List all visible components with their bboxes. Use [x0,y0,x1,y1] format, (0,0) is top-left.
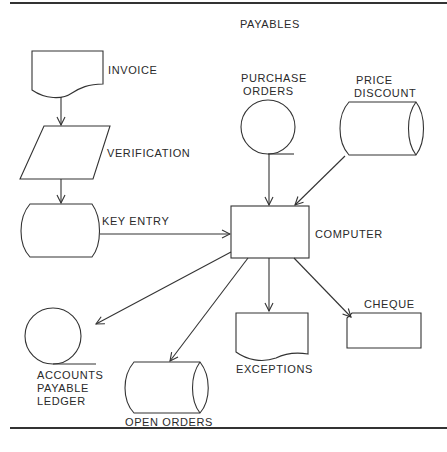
purchase-orders-node: PURCHASE ORDERS [241,72,307,154]
exceptions-node: EXCEPTIONS [236,313,313,375]
tape-shape-icon [241,100,295,154]
price-discount-node: PRICE DISCOUNT [340,74,424,155]
open-orders-node: OPEN ORDERS [125,362,213,428]
invoice-node: INVOICE [32,51,157,98]
edge-computer-cheque [294,258,351,317]
accounts-payable-ledger-node: ACCOUNTS PAYABLE LEDGER [25,308,104,407]
price-discount-label-2: DISCOUNT [354,87,416,99]
verification-label: VERIFICATION [107,147,190,159]
diagram-title: PAYABLES [240,18,300,30]
cheque-node: CHEQUE [347,298,421,348]
ledger-label-2: PAYABLE [37,382,89,394]
computer-node: COMPUTER [231,206,383,258]
edge-computer-ledger [96,252,231,324]
exceptions-label: EXCEPTIONS [236,363,313,375]
invoice-label: INVOICE [108,64,157,76]
price-discount-label-1: PRICE [356,74,393,86]
cheque-label: CHEQUE [364,298,415,310]
key-entry-node: KEY ENTRY [21,204,169,257]
parallelogram-shape-icon [20,126,110,179]
edge-pricediscount-computer [295,156,345,205]
keying-shape-icon [21,204,100,257]
tape-shape-icon [25,308,81,364]
process-shape-icon [231,206,309,258]
open-orders-label: OPEN ORDERS [125,416,213,428]
computer-label: COMPUTER [315,228,383,240]
ledger-label-3: LEDGER [37,395,86,407]
verification-node: VERIFICATION [20,126,190,179]
key-entry-label: KEY ENTRY [102,215,169,227]
drum-inner-curve [409,102,417,155]
payables-flowchart: PAYABLES INVOICE VERIFICATION KEY ENTRY … [0,0,447,452]
ledger-label-1: ACCOUNTS [37,369,104,381]
purchase-orders-label-2: ORDERS [243,85,294,97]
document-shape-icon [236,313,308,360]
drum-inner-curve [193,362,201,413]
document-shape-icon [32,51,103,98]
purchase-orders-label-1: PURCHASE [241,72,307,84]
punched-card-shape-icon [347,313,421,348]
